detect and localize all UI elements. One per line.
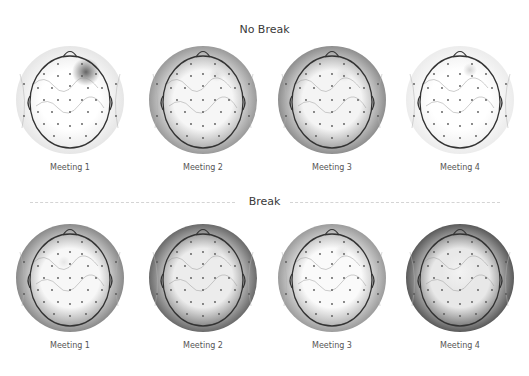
head-topomap-svg <box>14 44 126 156</box>
map-label: Meeting 3 <box>276 163 388 172</box>
map-label: Meeting 4 <box>404 341 516 350</box>
topomap-no-break-meeting-2 <box>147 44 259 156</box>
topomap-break-meeting-1 <box>14 222 126 334</box>
topomap-break-meeting-3 <box>276 222 388 334</box>
head-topomap-svg <box>276 44 388 156</box>
head-topomap-svg <box>276 222 388 334</box>
map-label: Meeting 2 <box>147 341 259 350</box>
map-label: Meeting 4 <box>404 163 516 172</box>
head-topomap-svg <box>147 222 259 334</box>
topomap-no-break-meeting-1 <box>14 44 126 156</box>
map-label: Meeting 2 <box>147 163 259 172</box>
map-label: Meeting 1 <box>14 341 126 350</box>
map-label: Meeting 3 <box>276 341 388 350</box>
head-topomap-svg <box>147 44 259 156</box>
head-topomap-svg <box>404 44 516 156</box>
head-topomap-svg <box>14 222 126 334</box>
divider-right <box>290 202 500 203</box>
map-label: Meeting 1 <box>14 163 126 172</box>
topomap-no-break-meeting-4 <box>404 44 516 156</box>
topomap-no-break-meeting-3 <box>276 44 388 156</box>
topomap-break-meeting-2 <box>147 222 259 334</box>
head-topomap-svg <box>404 222 516 334</box>
topomap-break-meeting-4 <box>404 222 516 334</box>
section-title-no-break: No Break <box>0 23 529 36</box>
